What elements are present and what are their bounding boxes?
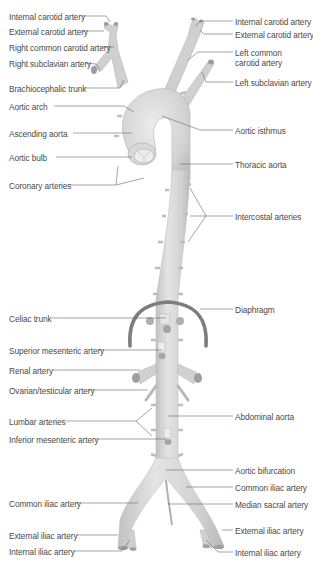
aorta-diagram: Internal carotid artery External carotid…	[0, 0, 313, 565]
iliac-arteries	[118, 458, 224, 551]
label-common-iliac-artery-left: Common iliac artery	[9, 499, 81, 509]
label-superior-mesenteric-artery: Superior mesenteric artery	[9, 346, 104, 356]
label-internal-carotid-artery-right: Internal carotid artery	[235, 17, 311, 27]
label-diaphragm: Diaphragm	[235, 305, 275, 315]
label-aortic-bifurcation: Aortic bifurcation	[235, 466, 295, 476]
label-ovarian-testicular-artery: Ovarian/testicular artery	[9, 386, 95, 396]
label-external-carotid-artery-left: External carotid artery	[9, 27, 88, 37]
label-aortic-arch: Aortic arch	[9, 102, 48, 112]
label-median-sacral-artery: Median sacral artery	[235, 500, 308, 510]
label-brachiocephalic-trunk: Brachiocephalic trunk	[9, 84, 86, 94]
label-left-subclavian-artery: Left subclavian artery	[235, 78, 312, 88]
label-internal-carotid-artery-left: Internal carotid artery	[9, 12, 85, 22]
label-right-subclavian-artery: Right subclavian artery	[9, 59, 91, 69]
label-external-carotid-artery-right: External carotid artery	[235, 30, 313, 40]
label-lumbar-arteries: Lumbar arteries	[9, 417, 66, 427]
label-celiac-trunk: Celiac trunk	[9, 314, 52, 324]
label-inferior-mesenteric-artery: Inferior mesenteric artery	[9, 435, 99, 445]
label-renal-artery: Renal artery	[9, 366, 53, 376]
label-intercostal-arteries: Intercostal arteries	[235, 212, 301, 222]
label-thoracic-aorta: Thoracic aorta	[235, 160, 287, 170]
label-external-iliac-artery-right: External iliac artery	[235, 526, 303, 536]
label-internal-iliac-artery-left: Internal iliac artery	[9, 547, 75, 557]
brachiocephalic-vessels	[91, 22, 128, 88]
label-aortic-bulb: Aortic bulb	[9, 153, 47, 163]
label-external-iliac-artery-left: External iliac artery	[9, 531, 77, 541]
label-internal-iliac-artery-right: Internal iliac artery	[235, 548, 301, 558]
label-coronary-arteries: Coronary arteries	[9, 181, 71, 191]
label-abdominal-aorta: Abdominal aorta	[235, 412, 294, 422]
label-common-iliac-artery-right: Common iliac artery	[235, 483, 307, 493]
label-right-common-carotid-artery: Right common carotid artery	[9, 43, 111, 53]
aortic-arch-shape	[122, 89, 190, 180]
label-left-common-carotid-artery: Left common carotid artery	[235, 48, 282, 68]
label-aortic-isthmus: Aortic isthmus	[235, 126, 286, 136]
label-ascending-aorta: Ascending aorta	[9, 129, 67, 139]
